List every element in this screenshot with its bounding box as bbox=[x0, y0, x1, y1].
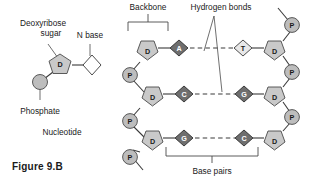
dna-structure-diagram: D Deoxyribose sugar N base Phosphate Nuc… bbox=[0, 0, 316, 186]
phosphate-label: Phosphate bbox=[20, 106, 60, 116]
left-bond-p1-d2 bbox=[133, 80, 144, 92]
right-phosphate-3-glyph: P bbox=[290, 113, 295, 122]
backbone-label: Backbone bbox=[130, 2, 167, 12]
phosphate-circle bbox=[33, 75, 48, 90]
base-pairs-bracket bbox=[166, 147, 258, 156]
right-bond-d1-p1 bbox=[283, 32, 290, 41]
right-sugar-1-glyph: D bbox=[272, 47, 277, 56]
right-base-2-glyph: G bbox=[241, 90, 247, 99]
left-base-2-glyph: C bbox=[181, 90, 186, 99]
dna-double-strand: Backbone Hydrogen bonds P P P D D D bbox=[123, 2, 300, 176]
backbone-bracket bbox=[128, 22, 168, 31]
hydrogen-bond-leader-1 bbox=[204, 16, 214, 51]
left-phosphate-2-glyph: P bbox=[128, 117, 133, 126]
figure-caption: Figure 9.B bbox=[12, 161, 63, 172]
figure-9b-dna-structure: D Deoxyribose sugar N base Phosphate Nuc… bbox=[0, 0, 316, 186]
left-base-1-glyph: A bbox=[176, 44, 181, 53]
right-sugar-3-glyph: D bbox=[272, 137, 277, 146]
deoxyribose-label-line1: Deoxyribose bbox=[20, 18, 67, 28]
right-phosphate-2-glyph: P bbox=[290, 68, 295, 77]
left-sugar-1-glyph: D bbox=[145, 47, 150, 56]
base-pairs-label: Base pairs bbox=[192, 166, 231, 176]
n-base-diamond bbox=[83, 55, 101, 75]
left-base-3-glyph: G bbox=[181, 134, 187, 143]
left-bond-p2-d3 bbox=[133, 126, 144, 137]
n-base-label: N base bbox=[77, 30, 104, 40]
right-base-3-glyph: C bbox=[241, 134, 246, 143]
left-phosphate-3-glyph: P bbox=[128, 153, 133, 162]
left-sugar-3-glyph: D bbox=[150, 137, 155, 146]
hydrogen-bond-leader-2 bbox=[214, 16, 222, 92]
right-base-1-glyph: T bbox=[241, 44, 246, 53]
deoxyribose-label-line2: sugar bbox=[41, 28, 62, 38]
nucleotide-callout: D Deoxyribose sugar N base Phosphate Nuc… bbox=[12, 18, 104, 172]
left-sugar-2-glyph: D bbox=[150, 93, 155, 102]
right-bond-p2-d2 bbox=[283, 78, 290, 87]
left-phosphate-1-glyph: P bbox=[128, 71, 133, 80]
sugar-glyph-label: D bbox=[57, 60, 62, 69]
nucleotide-label: Nucleotide bbox=[42, 127, 82, 137]
right-sugar-2-glyph: D bbox=[272, 93, 277, 102]
right-bond-d1-p2 bbox=[283, 56, 290, 66]
hydrogen-bonds-label: Hydrogen bonds bbox=[191, 2, 252, 12]
right-strand-free-end bbox=[278, 8, 288, 20]
right-phosphate-1-glyph: P bbox=[290, 21, 295, 30]
